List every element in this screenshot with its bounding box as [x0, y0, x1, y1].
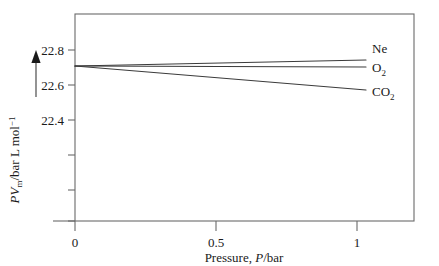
x-axis-title-symbol: P: [254, 250, 263, 265]
chart-svg: 22.8 22.6 22.4 0 0.5 1 Pressure, P/bar P…: [0, 0, 439, 266]
x-axis-ticks: [75, 221, 357, 231]
series-label-co2-sub: 2: [390, 92, 395, 102]
series-label-ne: Ne: [372, 41, 387, 56]
series-line-ne: [75, 60, 366, 66]
y-axis-title-p: P: [7, 195, 22, 204]
x-tick-label-2: 1: [354, 235, 361, 250]
y-tick-label-2: 22.4: [41, 113, 64, 128]
plot-frame: [75, 14, 414, 221]
y-axis-title-sup: −1: [7, 117, 17, 127]
y-tick-label-1: 22.6: [41, 78, 64, 93]
y-axis-title-v-sub: m: [14, 181, 24, 188]
series-label-o2-main: O: [372, 60, 381, 75]
series-lines: [75, 60, 366, 90]
y-tick-label-0: 22.8: [41, 43, 64, 58]
y-axis-title-rest: /bar L mol: [7, 126, 22, 181]
series-line-o2: [75, 66, 366, 67]
series-label-o2: O2: [372, 60, 386, 78]
x-axis-title: Pressure, P/bar: [205, 250, 284, 265]
y-axis-title: PVm/bar L mol−1: [7, 117, 24, 205]
series-label-co2-main: CO: [372, 84, 390, 99]
x-axis-title-lead: Pressure,: [205, 250, 256, 265]
y-axis-ticks: [68, 50, 75, 221]
x-tick-label-0: 0: [72, 235, 79, 250]
x-tick-label-1: 0.5: [208, 235, 224, 250]
up-arrow-icon: [31, 50, 40, 97]
series-label-co2: CO2: [372, 84, 395, 102]
series-line-co2: [75, 66, 366, 90]
chart-figure: 22.8 22.6 22.4 0 0.5 1 Pressure, P/bar P…: [0, 0, 439, 266]
series-label-o2-sub: 2: [381, 68, 386, 78]
x-axis-title-tail: /bar: [263, 250, 284, 265]
